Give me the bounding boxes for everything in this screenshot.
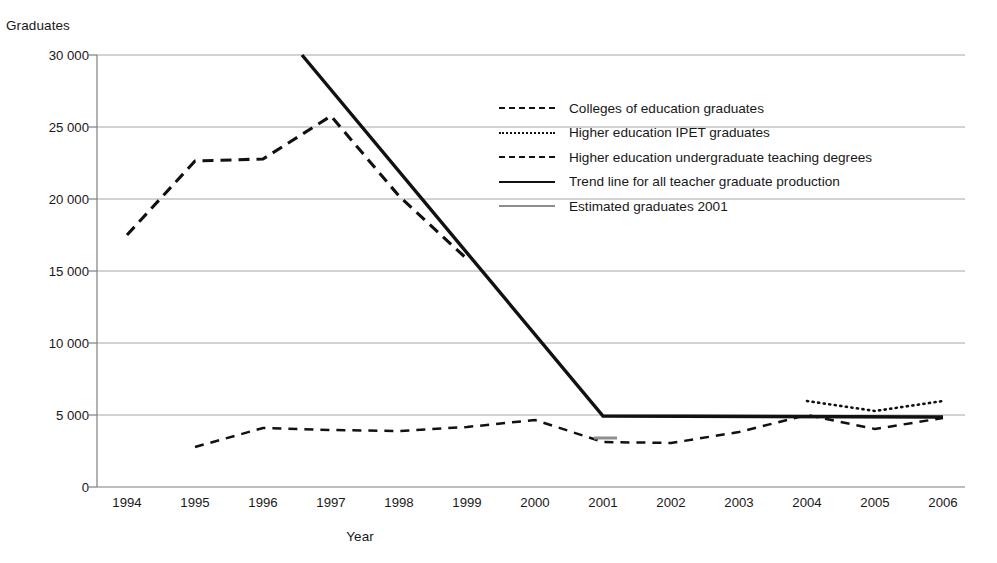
x-tick-1999: 1999 [452, 495, 481, 510]
x-tick-1997: 1997 [316, 495, 345, 510]
plot-canvas [0, 0, 997, 563]
y-tick-10000: 10 000 [3, 336, 89, 351]
x-tick-2001: 2001 [588, 495, 617, 510]
x-tick-1996: 1996 [248, 495, 277, 510]
y-tick-30000: 30 000 [3, 48, 89, 63]
y-tick-15000: 15 000 [3, 264, 89, 279]
legend-key-dashed-fine-icon [497, 150, 559, 164]
series-colleges-of-education [127, 116, 467, 259]
legend-key-dashed-bold-icon [497, 101, 559, 115]
teacher-graduates-line-chart: Graduates 0 5 [0, 0, 997, 563]
x-tick-2000: 2000 [520, 495, 549, 510]
legend-label-higher-education-ipet: Higher education IPET graduates [569, 125, 770, 140]
series-undergraduate-teaching-degrees [195, 415, 943, 447]
x-tick-1995: 1995 [180, 495, 209, 510]
x-tick-1994: 1994 [112, 495, 141, 510]
x-tick-1998: 1998 [384, 495, 413, 510]
x-tick-2004: 2004 [792, 495, 821, 510]
legend-item-estimated-graduates-2001: Estimated graduates 2001 [497, 194, 967, 219]
y-axis-tick-labels: 0 5 000 10 000 15 000 20 000 25 000 30 0… [0, 0, 89, 563]
legend-label-colleges-of-education: Colleges of education graduates [569, 101, 764, 116]
y-tick-20000: 20 000 [3, 192, 89, 207]
legend-label-undergraduate-teaching-degrees: Higher education undergraduate teaching … [569, 150, 872, 165]
legend-item-undergraduate-teaching-degrees: Higher education undergraduate teaching … [497, 145, 967, 170]
legend-label-estimated-graduates-2001: Estimated graduates 2001 [569, 199, 728, 214]
series-higher-education-ipet [807, 401, 943, 411]
y-axis-ticks [89, 55, 97, 487]
x-tick-2006: 2006 [928, 495, 957, 510]
legend-key-solid-icon [497, 175, 559, 189]
legend-key-dotted-icon [497, 126, 559, 140]
y-tick-0: 0 [3, 480, 89, 495]
legend-label-trend-line: Trend line for all teacher graduate prod… [569, 174, 840, 189]
legend-key-solid-gray-icon [497, 199, 559, 213]
x-tick-2005: 2005 [860, 495, 889, 510]
y-tick-25000: 25 000 [3, 120, 89, 135]
y-tick-5000: 5 000 [3, 408, 89, 423]
legend-item-higher-education-ipet: Higher education IPET graduates [497, 121, 967, 146]
x-tick-2003: 2003 [724, 495, 753, 510]
x-axis-title: Year [0, 529, 720, 544]
chart-legend: Colleges of education graduates Higher e… [497, 96, 967, 219]
legend-item-colleges-of-education: Colleges of education graduates [497, 96, 967, 121]
legend-item-trend-line: Trend line for all teacher graduate prod… [497, 170, 967, 195]
x-tick-2002: 2002 [656, 495, 685, 510]
